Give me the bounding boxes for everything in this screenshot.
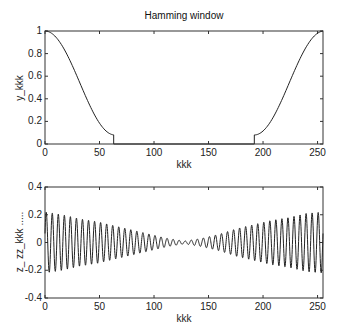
- bottom-y-axis-label: z_ zz_kkk .....: [14, 212, 25, 273]
- x-tick-label: 100: [146, 147, 163, 158]
- y-tick-label: 0.2: [28, 209, 42, 220]
- y-tick-label: 0.6: [28, 70, 42, 81]
- top-y-axis-label: y_kkk: [14, 74, 25, 101]
- y-tick-label: 0.8: [28, 48, 42, 59]
- x-tick-label: 200: [255, 147, 272, 158]
- figure: Hamming window 05010015020025000.20.40.6…: [0, 0, 340, 335]
- top-plot-title: Hamming window: [145, 10, 225, 21]
- x-tick-label: 100: [146, 301, 163, 312]
- bottom-x-axis-label: kkk: [177, 313, 193, 324]
- x-tick-label: 150: [200, 301, 217, 312]
- y-tick-label: 0.4: [28, 93, 42, 104]
- x-tick-label: 0: [42, 301, 48, 312]
- y-tick-label: -0.4: [25, 292, 43, 303]
- y-tick-label: 0.4: [28, 181, 42, 192]
- y-tick-label: 1: [36, 25, 42, 36]
- top-x-axis-label: kkk: [177, 159, 193, 170]
- x-tick-label: 50: [94, 301, 106, 312]
- x-tick-label: 150: [200, 147, 217, 158]
- x-tick-label: 50: [94, 147, 106, 158]
- y-tick-label: -0.2: [25, 264, 43, 275]
- y-tick-label: 0: [36, 138, 42, 149]
- y-tick-label: 0: [36, 237, 42, 248]
- figure-background: [0, 0, 340, 335]
- x-tick-label: 200: [255, 301, 272, 312]
- x-tick-label: 250: [309, 147, 326, 158]
- y-tick-label: 0.2: [28, 115, 42, 126]
- x-tick-label: 0: [42, 147, 48, 158]
- x-tick-label: 250: [309, 301, 326, 312]
